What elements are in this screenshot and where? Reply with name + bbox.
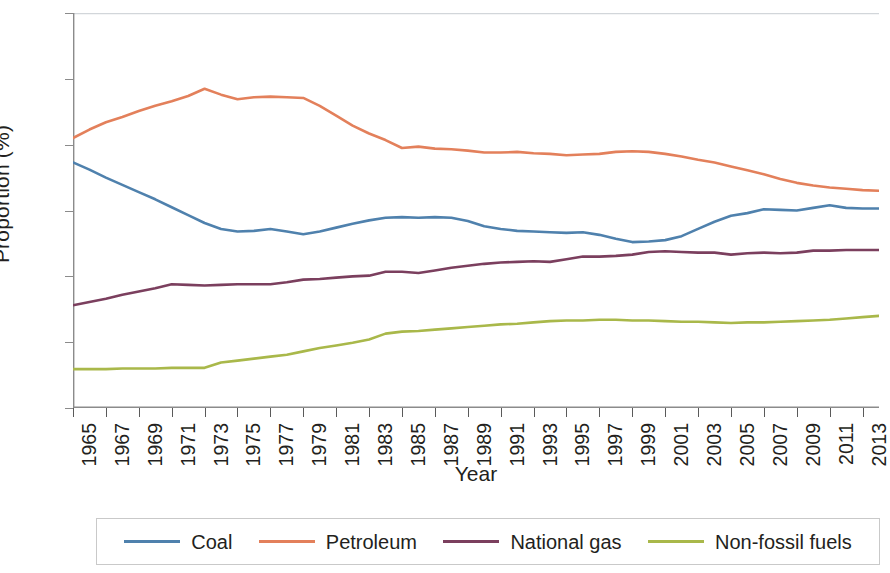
x-tick-label: 1985 bbox=[409, 423, 429, 466]
x-tick-label: 1991 bbox=[508, 423, 528, 466]
x-tick-mark bbox=[303, 408, 304, 417]
x-tick-label: 2001 bbox=[672, 423, 692, 466]
x-tick-label: 2005 bbox=[738, 423, 758, 466]
legend-line-icon bbox=[124, 540, 180, 543]
x-tick-label: 1965 bbox=[80, 423, 100, 466]
x-tick-label: 2003 bbox=[705, 423, 725, 466]
x-tick-mark bbox=[237, 408, 238, 417]
x-tick-mark bbox=[270, 408, 271, 417]
x-tick-mark bbox=[139, 408, 140, 417]
x-tick-label: 1973 bbox=[212, 423, 232, 466]
y-axis-title: Proportion (%) bbox=[0, 0, 14, 444]
x-tick-mark bbox=[336, 408, 337, 417]
x-tick-mark bbox=[106, 408, 107, 417]
x-tick-label: 1993 bbox=[541, 423, 561, 466]
x-tick-label: 1977 bbox=[277, 423, 297, 466]
y-tick-mark bbox=[65, 276, 73, 277]
y-tick-mark bbox=[65, 342, 73, 343]
x-tick-mark bbox=[665, 408, 666, 417]
plot-area: 0102030405060196519671969197119731975197… bbox=[73, 13, 879, 408]
plot-svg bbox=[73, 13, 879, 408]
legend-label: Non-fossil fuels bbox=[715, 532, 852, 552]
x-tick-label: 2011 bbox=[837, 423, 857, 465]
y-tick-mark bbox=[65, 79, 73, 80]
x-tick-label: 2009 bbox=[804, 423, 824, 466]
x-tick-mark bbox=[863, 408, 864, 417]
x-tick-label: 1999 bbox=[639, 423, 659, 466]
x-tick-mark bbox=[205, 408, 206, 417]
x-tick-mark bbox=[764, 408, 765, 417]
series-line-national-gas bbox=[73, 250, 879, 305]
y-tick-mark bbox=[65, 408, 73, 409]
legend-label: National gas bbox=[510, 532, 621, 552]
x-tick-label: 1969 bbox=[146, 423, 166, 466]
x-tick-mark bbox=[599, 408, 600, 417]
legend-item-national-gas[interactable]: National gas bbox=[443, 532, 621, 552]
series-line-coal bbox=[73, 162, 879, 242]
x-tick-mark bbox=[698, 408, 699, 417]
series-line-petroleum bbox=[73, 89, 879, 191]
x-axis-title: Year bbox=[73, 462, 879, 486]
x-tick-mark bbox=[172, 408, 173, 417]
x-tick-mark bbox=[73, 408, 74, 417]
legend-line-icon bbox=[648, 540, 704, 543]
x-tick-mark bbox=[830, 408, 831, 417]
x-tick-label: 1975 bbox=[244, 423, 264, 466]
x-tick-mark bbox=[468, 408, 469, 417]
legend-line-icon bbox=[259, 540, 315, 543]
x-tick-label: 1997 bbox=[606, 423, 626, 466]
series-line-non-fossil-fuels bbox=[73, 316, 879, 369]
x-tick-label: 1989 bbox=[475, 423, 495, 466]
x-tick-label: 2007 bbox=[771, 423, 791, 466]
chart-legend: CoalPetroleumNational gasNon-fossil fuel… bbox=[96, 518, 880, 565]
x-tick-label: 1967 bbox=[113, 423, 133, 466]
legend-label: Coal bbox=[191, 532, 232, 552]
legend-item-petroleum[interactable]: Petroleum bbox=[259, 532, 417, 552]
x-tick-mark bbox=[731, 408, 732, 417]
x-tick-label: 1987 bbox=[442, 423, 462, 466]
x-tick-label: 1971 bbox=[179, 423, 199, 466]
legend-item-coal[interactable]: Coal bbox=[124, 532, 232, 552]
legend-label: Petroleum bbox=[326, 532, 417, 552]
x-tick-mark bbox=[501, 408, 502, 417]
x-tick-mark bbox=[369, 408, 370, 417]
legend-line-icon bbox=[443, 540, 499, 543]
x-tick-mark bbox=[435, 408, 436, 417]
x-tick-mark bbox=[566, 408, 567, 417]
x-tick-mark bbox=[797, 408, 798, 417]
y-tick-mark bbox=[65, 13, 73, 14]
x-tick-label: 1981 bbox=[343, 423, 363, 466]
x-tick-label: 1979 bbox=[310, 423, 330, 466]
y-tick-mark bbox=[65, 211, 73, 212]
x-tick-label: 2013 bbox=[870, 423, 890, 466]
x-tick-label: 1995 bbox=[573, 423, 593, 466]
x-tick-mark bbox=[534, 408, 535, 417]
x-tick-mark bbox=[632, 408, 633, 417]
x-tick-label: 1983 bbox=[376, 423, 396, 466]
x-tick-mark bbox=[402, 408, 403, 417]
legend-item-non-fossil-fuels[interactable]: Non-fossil fuels bbox=[648, 532, 852, 552]
y-tick-mark bbox=[65, 145, 73, 146]
